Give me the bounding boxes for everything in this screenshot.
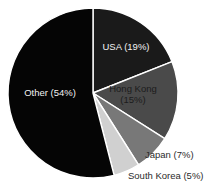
- pie-label-line: Hong Kong: [109, 82, 157, 93]
- pie-label-usa: USA (19%): [103, 41, 150, 52]
- pie-chart-canvas: USA (19%)Hong Kong(15%)Japan (7%)South K…: [0, 0, 215, 190]
- pie-label-other: Other (54%): [24, 87, 76, 98]
- pie-label-line: Japan (7%): [145, 149, 194, 160]
- pie-label-line: (15%): [120, 93, 145, 104]
- pie-chart: USA (19%)Hong Kong(15%)Japan (7%)South K…: [0, 0, 215, 190]
- pie-label-line: USA (19%): [103, 41, 150, 52]
- pie-label-japan: Japan (7%): [145, 149, 194, 160]
- pie-label-south-korea: South Korea (5%): [128, 170, 204, 181]
- pie-label-line: Other (54%): [24, 87, 76, 98]
- pie-label-line: South Korea (5%): [128, 170, 204, 181]
